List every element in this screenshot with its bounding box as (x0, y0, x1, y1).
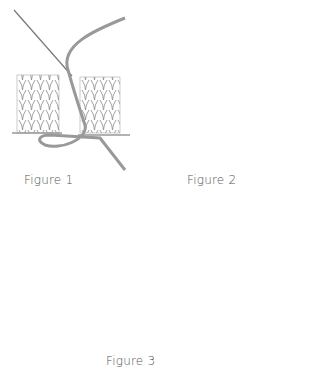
figure-3-caption: Figure 3 (106, 354, 155, 368)
needle-icon (14, 10, 72, 76)
illustration-canvas (0, 0, 314, 380)
figure-1-drawing (12, 10, 130, 170)
figure-2-caption: Figure 2 (187, 173, 236, 187)
figure-1-caption: Figure 1 (24, 173, 73, 187)
